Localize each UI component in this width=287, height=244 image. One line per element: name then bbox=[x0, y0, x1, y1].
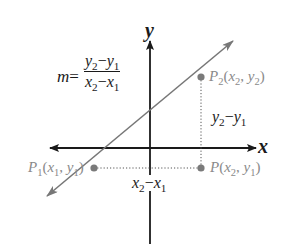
point-p-label: P(x2, y1) bbox=[210, 160, 261, 175]
run-label: x2−x1 bbox=[131, 175, 167, 191]
slope-symbol: m bbox=[57, 67, 69, 86]
slope-fraction: y2−y1 x2−x1 bbox=[84, 53, 120, 90]
y-axis-label: y bbox=[145, 20, 154, 40]
equals-sign: = bbox=[69, 67, 79, 86]
slope-numerator: y2−y1 bbox=[84, 53, 120, 72]
slope-denominator: x2−x1 bbox=[85, 72, 119, 90]
point-p1-label: P1(x1, y1) bbox=[28, 160, 84, 175]
point-p bbox=[197, 164, 204, 171]
rise-label: y2−y1 bbox=[212, 109, 246, 125]
point-p1 bbox=[90, 164, 97, 171]
point-p2-label: P2(x2, y2) bbox=[209, 69, 265, 84]
x-axis-label: x bbox=[258, 136, 268, 156]
point-p2 bbox=[197, 73, 204, 80]
formula-lhs: m= bbox=[57, 68, 79, 85]
